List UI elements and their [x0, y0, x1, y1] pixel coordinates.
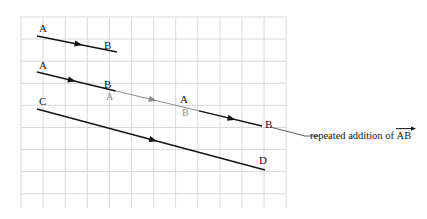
arrowhead-ab-single — [74, 40, 82, 46]
vector-ab-letters: AB — [397, 130, 412, 141]
annotation-prefix: repeated addition of — [310, 130, 397, 141]
grid-layer — [21, 17, 286, 208]
label-a-mid-2: A — [106, 92, 113, 102]
figure-canvas: ABABAABBCD repeated addition of AB — [0, 0, 427, 219]
label-b-top: B — [104, 40, 111, 51]
label-a-mid-3: A — [180, 94, 188, 105]
annotation-text: repeated addition of AB — [310, 130, 411, 141]
label-b-mid-1: B — [104, 79, 111, 90]
label-c: C — [39, 96, 46, 107]
vector-ab-notation: AB — [397, 130, 412, 141]
vector-overbar-arrow-icon — [396, 126, 416, 131]
label-b-mid-4: B — [182, 108, 189, 118]
arrowhead-cd — [149, 136, 158, 142]
vector-diagram-svg — [0, 0, 427, 219]
label-b-mid-end: B — [265, 119, 272, 130]
leader-segment-slanted — [270, 127, 305, 136]
label-d: D — [259, 155, 267, 166]
arrowhead-ab-repeated-1 — [148, 96, 157, 102]
label-a-top: A — [39, 23, 47, 34]
label-a-mid-start: A — [39, 60, 47, 71]
